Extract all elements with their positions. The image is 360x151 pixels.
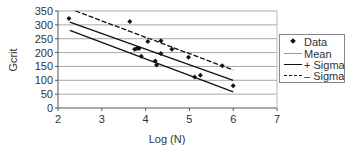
svg-text:2: 2 [55, 113, 61, 125]
svg-text:5: 5 [186, 113, 192, 125]
plot-frame [58, 11, 277, 108]
dashed-line-swatch-icon [284, 75, 302, 76]
svg-text:50: 50 [41, 88, 53, 100]
gridlines [58, 11, 277, 94]
legend-item-data: Data [280, 36, 344, 48]
legend-item-minus-sigma: – Sigma [280, 70, 344, 82]
svg-text:100: 100 [35, 74, 53, 86]
line-swatch-icon [284, 53, 302, 54]
svg-text:0: 0 [47, 102, 53, 114]
x-axis-ticks: 234567 [55, 108, 280, 125]
svg-text:3: 3 [99, 113, 105, 125]
legend: Data Mean + Sigma – Sigma [279, 34, 345, 83]
y-axis-title: Gcrit [7, 48, 19, 71]
svg-text:4: 4 [143, 113, 149, 125]
y-axis-ticks: 050100150200250300350 [35, 5, 58, 114]
line-swatch-icon [284, 64, 302, 65]
svg-text:6: 6 [230, 113, 236, 125]
svg-text:300: 300 [35, 19, 53, 31]
svg-text:200: 200 [35, 47, 53, 59]
svg-text:7: 7 [274, 113, 280, 125]
svg-text:150: 150 [35, 60, 53, 72]
svg-text:250: 250 [35, 33, 53, 45]
x-axis-title: Log (N) [149, 133, 186, 145]
svg-text:350: 350 [35, 5, 53, 17]
